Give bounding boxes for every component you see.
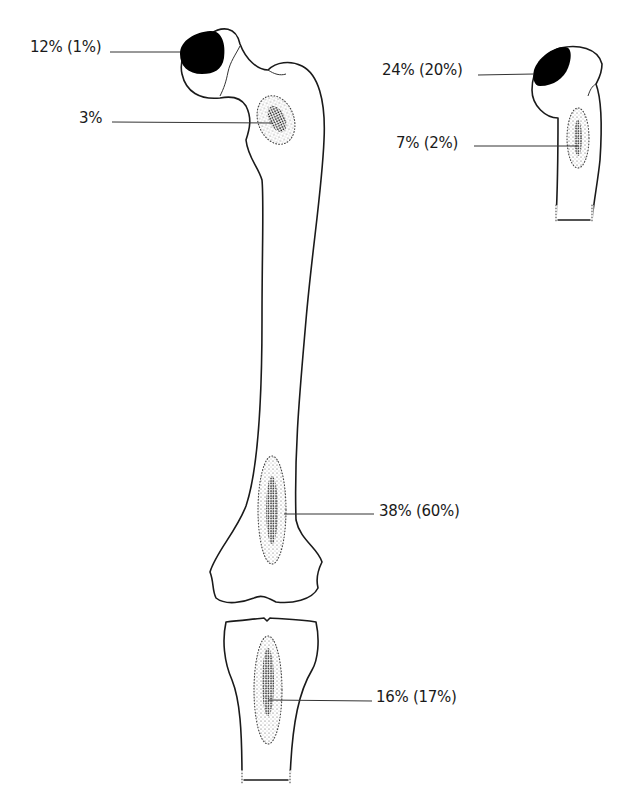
tibia [224, 618, 318, 784]
label-proximal-humerus: 7% (2%) [396, 134, 458, 152]
label-humeral-head: 24% (20%) [382, 61, 462, 79]
label-proximal-tibia: 16% (17%) [376, 688, 456, 706]
femoral-head-region [180, 31, 224, 74]
femur [180, 29, 324, 603]
label-femoral-neck-trochanter: 3% [79, 109, 102, 127]
leader-lines [110, 52, 578, 701]
label-femoral-head: 12% (1%) [30, 38, 101, 56]
humerus [532, 47, 602, 222]
label-distal-femur: 38% (60%) [379, 502, 459, 520]
femur-outline [181, 29, 324, 603]
